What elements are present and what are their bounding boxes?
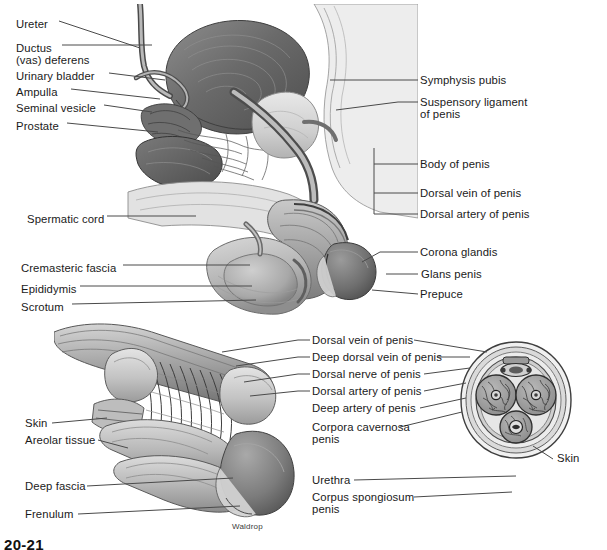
label-prostate: Prostate [16, 120, 59, 133]
cross-section-illustration [455, 338, 577, 464]
artist-credit: Waldrop [232, 522, 263, 531]
figure-number: 20-21 [4, 536, 44, 550]
label-deep-fascia: Deep fascia [25, 480, 86, 493]
anatomy-figure-page: Ureter Ductus (vas) deferens Urinary bla… [0, 0, 607, 550]
label-frenulum: Frenulum [25, 508, 74, 521]
lower-longitudinal-illustration [54, 318, 324, 533]
label-corpus-spongiosum-cont: penis [312, 503, 340, 516]
label-areolar-tissue: Areolar tissue [25, 434, 95, 447]
label-body-of-penis: Body of penis [420, 158, 490, 171]
label-corpora-cavernosa-cont: penis [312, 433, 340, 446]
label-scrotum: Scrotum [21, 301, 64, 314]
label-urethra: Urethra [312, 474, 350, 487]
upper-illustration [118, 4, 418, 316]
label-dorsal-artery-of-penis-upper: Dorsal artery of penis [420, 208, 530, 221]
label-ductus: Ductus [16, 42, 52, 55]
label-dorsal-artery-of-penis: Dorsal artery of penis [312, 385, 422, 398]
label-ureter: Ureter [16, 18, 48, 31]
label-cremasteric-fascia: Cremasteric fascia [21, 262, 116, 275]
label-corona-glandis: Corona glandis [420, 246, 497, 259]
label-corpus-spongiosum: Corpus spongiosum [312, 491, 414, 504]
label-urinary-bladder: Urinary bladder [16, 70, 95, 83]
label-skin-right: Skin [557, 452, 579, 465]
label-vas-deferens: (vas) deferens [16, 54, 90, 67]
label-dorsal-vein-of-penis: Dorsal vein of penis [312, 334, 413, 347]
label-skin-left: Skin [25, 417, 47, 430]
label-dorsal-nerve-of-penis: Dorsal nerve of penis [312, 368, 421, 381]
label-symphysis-pubis: Symphysis pubis [420, 74, 506, 87]
label-deep-artery-of-penis: Deep artery of penis [312, 402, 416, 415]
label-prepuce: Prepuce [420, 288, 463, 301]
label-dorsal-vein-of-penis-upper: Dorsal vein of penis [420, 187, 521, 200]
label-spermatic-cord: Spermatic cord [27, 213, 104, 226]
label-corpora-cavernosa: Corpora cavernosa [312, 421, 410, 434]
label-suspensory-ligament-cont: of penis [420, 108, 460, 121]
label-suspensory-ligament: Suspensory ligament [420, 96, 527, 109]
label-epididymis: Epididymis [21, 283, 77, 296]
label-seminal-vesicle: Seminal vesicle [16, 102, 96, 115]
label-ampulla: Ampulla [16, 86, 58, 99]
label-deep-dorsal-vein-of-penis: Deep dorsal vein of penis [312, 351, 442, 364]
label-glans-penis: Glans penis [421, 268, 482, 281]
